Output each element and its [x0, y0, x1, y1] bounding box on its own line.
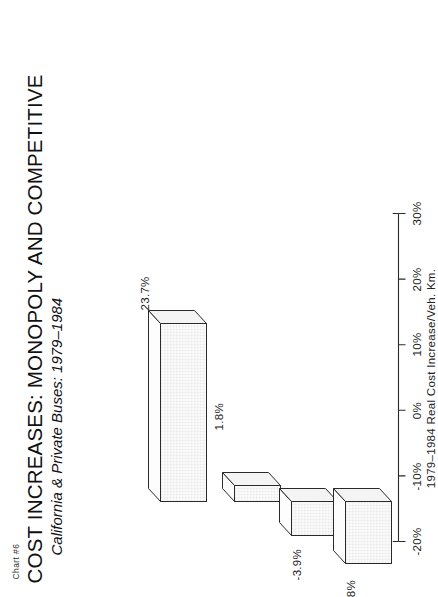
value-label-0: 23.7%: [138, 276, 150, 310]
axis-tick-5: 30%: [410, 193, 422, 233]
axis-tick-0: -20%: [410, 521, 422, 561]
chart-landscape-canvas: Chart #6 COST INCREASES: MONOPOLY AND CO…: [0, 0, 438, 597]
bar-comp-sd-pub-priv: [279, 465, 341, 535]
bar-comp-us-private-bus: [333, 473, 395, 563]
axis-tick-2: 0%: [410, 390, 422, 430]
bar-mono-13-calif-sys: [148, 291, 210, 501]
value-label-3: -8.8%: [344, 579, 356, 597]
bar-comp-san-diego-tr: [222, 441, 284, 501]
axis-tick-1: -10%: [410, 456, 422, 496]
chart-figure: Chart #6 COST INCREASES: MONOPOLY AND CO…: [0, 0, 438, 597]
value-label-1: 1.8%: [212, 403, 224, 430]
value-label-2: -3.9%: [290, 548, 302, 580]
axis-tick-3: 10%: [410, 324, 422, 364]
axis-tick-4: 20%: [410, 259, 422, 299]
axis-title: 1979–1984 Real Cost Increase/Veh. Km.: [424, 213, 436, 543]
plot-area: 23.7% 1.8% -3.9% -8.8% Mono: 13 Calif Sy…: [0, 0, 438, 597]
